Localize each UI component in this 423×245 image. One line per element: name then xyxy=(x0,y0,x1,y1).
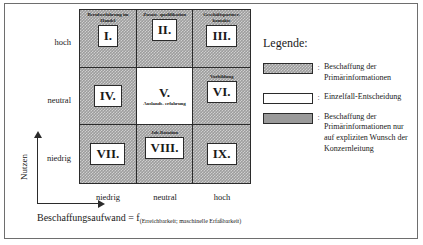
y-tick-neutral: neutral xyxy=(27,95,71,105)
x-axis-title-sub: (Erreichbarkeit; maschinelle Erfaßbarkei… xyxy=(140,218,242,224)
matrix-cell-5[interactable]: V. Auslands- erfahrung xyxy=(137,68,194,126)
matrix-grid: Berufserfahrung im Handel I. Zusatz- qua… xyxy=(79,9,251,184)
matrix-cell-3-roman: III. xyxy=(206,25,236,47)
matrix-cell-3-caption: Geschäftspartner- kontakte xyxy=(193,12,250,24)
legend-separator-3: : xyxy=(313,112,324,124)
matrix-cell-8-roman: VIII. xyxy=(145,137,185,159)
legend-swatch-solid xyxy=(263,113,313,124)
legend-separator-1: : xyxy=(313,62,324,74)
x-tick-hoch: hoch xyxy=(193,192,251,202)
matrix-cell-2[interactable]: Zusatz- qualifikation II. xyxy=(137,10,194,68)
figure-frame: hoch neutral niedrig Nutzen Berufserfahr… xyxy=(4,3,418,239)
matrix-cell-5-roman: V. xyxy=(159,86,170,99)
legend-label-1: Beschaffung der Primärinformationen xyxy=(324,62,415,84)
matrix-cell-8[interactable]: Job-Rotation VIII. xyxy=(137,125,194,183)
matrix-cell-4-roman: IV. xyxy=(94,85,122,107)
x-axis-title-main: Beschaffungsaufwand = f xyxy=(37,212,140,223)
matrix-cell-1[interactable]: Berufserfahrung im Handel I. xyxy=(80,10,137,68)
matrix-cell-2-roman: II. xyxy=(152,19,177,41)
y-axis-arrow xyxy=(37,137,38,203)
legend: Legende: : Beschaffung der Primärinforma… xyxy=(263,36,415,163)
matrix-cell-5-caption: Auslands- erfahrung xyxy=(137,101,193,107)
matrix-cell-6-roman: VI. xyxy=(207,81,237,103)
legend-label-2: Einzelfall-Entscheidung xyxy=(324,92,415,103)
matrix-cell-3[interactable]: Geschäftspartner- kontakte III. xyxy=(193,10,250,68)
x-axis-title: Beschaffungsaufwand = f(Erreichbarkeit; … xyxy=(37,212,241,224)
matrix-cell-7-roman: VII. xyxy=(90,143,125,165)
matrix-cell-1-roman: I. xyxy=(98,25,118,47)
x-tick-niedrig: niedrig xyxy=(79,192,137,202)
matrix-cell-8-caption: Job-Rotation xyxy=(137,130,193,136)
x-axis-arrow xyxy=(37,203,99,204)
x-tick-neutral: neutral xyxy=(136,192,194,202)
y-tick-niedrig: niedrig xyxy=(27,153,71,163)
legend-separator-2: : xyxy=(313,92,324,104)
y-tick-hoch: hoch xyxy=(27,37,71,47)
matrix-cell-7[interactable]: VII. xyxy=(80,125,137,183)
matrix-cell-2-caption: Zusatz- qualifikation xyxy=(137,12,193,18)
matrix-cell-6-caption: Vorbildung xyxy=(193,74,250,80)
matrix-cell-4[interactable]: IV. xyxy=(80,68,137,126)
matrix-cell-9[interactable]: IX. xyxy=(193,125,250,183)
legend-swatch-white xyxy=(263,93,313,104)
legend-row-einzelfall: : Einzelfall-Entscheidung xyxy=(263,92,415,104)
legend-label-3: Beschaffung der Primärinformationen nur … xyxy=(324,112,415,155)
matrix-cell-1-caption: Berufserfahrung im Handel xyxy=(80,12,136,24)
legend-title: Legende: xyxy=(263,36,415,51)
legend-swatch-hatch xyxy=(263,63,313,74)
legend-row-konzernleitung: : Beschaffung der Primärinformationen nu… xyxy=(263,112,415,155)
legend-row-primaerinformationen: : Beschaffung der Primärinformationen xyxy=(263,62,415,84)
y-axis-title: Nutzen xyxy=(19,139,29,195)
matrix-cell-9-roman: IX. xyxy=(207,143,237,165)
matrix-cell-6[interactable]: Vorbildung VI. xyxy=(193,68,250,126)
